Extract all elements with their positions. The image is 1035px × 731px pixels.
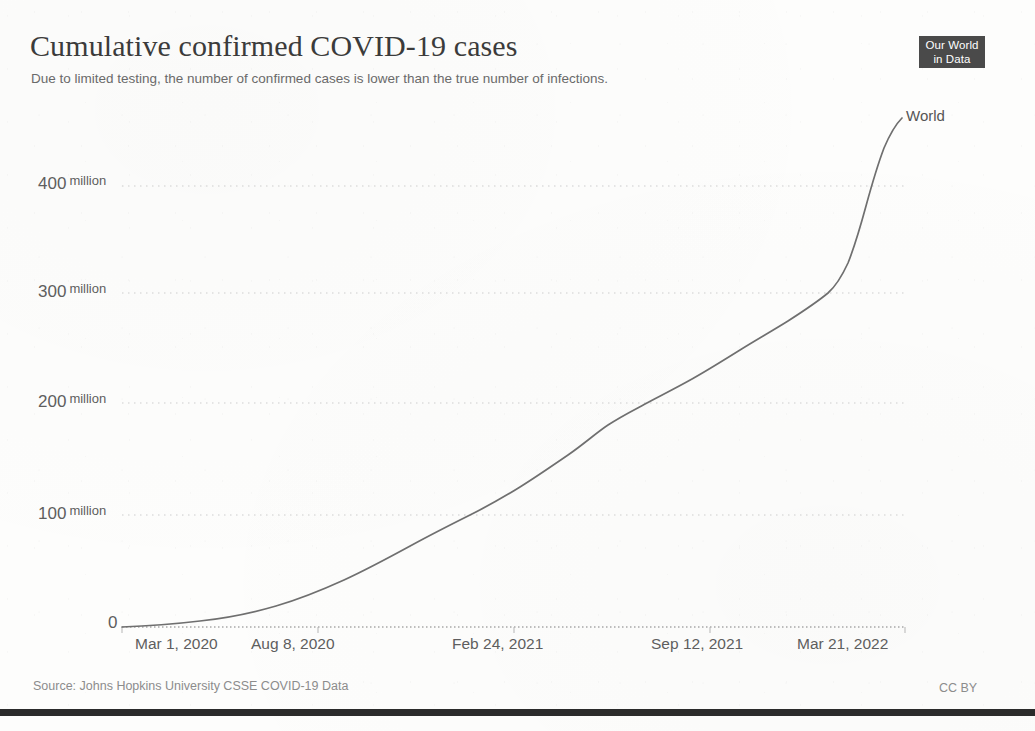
logo-line-2: in Data xyxy=(919,53,985,67)
scan-speckle-overlay xyxy=(0,0,1035,731)
series-label-world: World xyxy=(906,107,945,124)
y-axis-label-200m-unit: million xyxy=(69,391,106,406)
x-axis-label-1: Aug 8, 2020 xyxy=(251,635,335,653)
y-axis-label-300m: 300million xyxy=(38,281,106,302)
series-line-world xyxy=(122,118,902,627)
x-axis-label-2: Feb 24, 2021 xyxy=(452,635,543,653)
license-note[interactable]: CC BY xyxy=(939,681,977,695)
y-axis-label-300m-value: 300 xyxy=(38,282,66,301)
source-note: Source: Johns Hopkins University CSSE CO… xyxy=(33,679,348,693)
bottom-edge-bar xyxy=(0,709,1035,716)
y-axis-label-100m-unit: million xyxy=(69,503,106,518)
x-axis-label-3: Sep 12, 2021 xyxy=(651,635,743,653)
logo-line-1: Our World xyxy=(919,39,985,53)
x-axis-label-4: Mar 21, 2022 xyxy=(797,635,888,653)
y-axis-label-100m-value: 100 xyxy=(38,504,66,523)
page-title: Cumulative confirmed COVID-19 cases xyxy=(30,28,518,64)
gridlines xyxy=(122,186,905,515)
our-world-in-data-logo[interactable]: Our World in Data xyxy=(919,36,985,68)
y-axis-label-100m: 100million xyxy=(38,503,106,524)
y-axis-label-400m: 400million xyxy=(38,173,106,194)
x-axis-ticks xyxy=(122,627,905,633)
x-axis-label-0: Mar 1, 2020 xyxy=(135,635,218,653)
chart-subtitle: Due to limited testing, the number of co… xyxy=(31,70,608,87)
y-axis-label-400m-value: 400 xyxy=(38,174,66,193)
chart-page: Cumulative confirmed COVID-19 cases Due … xyxy=(0,0,1035,731)
y-axis-label-200m: 200million xyxy=(38,391,106,412)
y-axis-label-zero: 0 xyxy=(108,613,117,633)
y-axis-label-300m-unit: million xyxy=(69,281,106,296)
y-axis-label-200m-value: 200 xyxy=(38,392,66,411)
y-axis-label-400m-unit: million xyxy=(69,173,106,188)
chart-plot-area xyxy=(0,0,1035,731)
